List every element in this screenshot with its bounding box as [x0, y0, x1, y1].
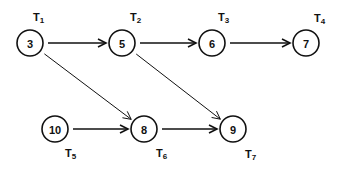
nodes-layer: 3T15T26T37T410T58T69T7	[17, 11, 326, 162]
edge-5-to-9	[136, 54, 220, 119]
task-label: T6	[156, 147, 168, 161]
edge-3-to-8	[44, 54, 131, 120]
edge-10-to-8	[73, 125, 128, 133]
node-value: 3	[27, 38, 33, 50]
node-value: 5	[119, 38, 125, 50]
task-dependency-graph: 3T15T26T37T410T58T69T7	[0, 0, 344, 169]
edges-layer	[44, 39, 290, 133]
node-3: 3T1	[17, 11, 45, 56]
node-5: 5T2	[109, 11, 142, 56]
task-label: T5	[65, 147, 77, 161]
node-8: 8T6	[131, 116, 168, 161]
task-label: T4	[314, 12, 326, 26]
task-label: T3	[218, 11, 230, 25]
node-10: 10T5	[42, 116, 77, 161]
edge-line	[136, 54, 220, 119]
edge-line	[44, 54, 131, 120]
node-6: 6T3	[199, 11, 230, 56]
node-7: 7T4	[293, 12, 326, 56]
node-value: 8	[141, 124, 147, 136]
edge-6-to-7	[230, 39, 290, 47]
node-value: 9	[230, 124, 236, 136]
edge-8-to-9	[162, 125, 217, 133]
task-label: T2	[130, 11, 142, 25]
node-9: 9T7	[220, 116, 257, 162]
node-value: 7	[303, 38, 309, 50]
node-value: 6	[209, 38, 215, 50]
task-label: T1	[33, 11, 45, 25]
task-label: T7	[245, 148, 257, 162]
edge-5-to-6	[140, 39, 196, 47]
node-value: 10	[49, 124, 61, 136]
edge-3-to-5	[48, 39, 106, 47]
